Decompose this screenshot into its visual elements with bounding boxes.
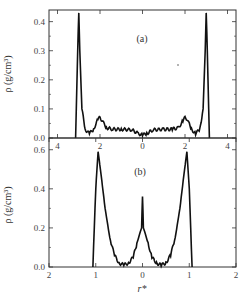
panel-a-label: (a) (136, 33, 147, 45)
panel-a-y-axis-label: ρ (g/cm³) (2, 55, 14, 92)
x-tick-label: 4 (225, 141, 230, 151)
x-axis-label: r* (138, 283, 147, 294)
y-tick-label: 0.4 (34, 17, 46, 27)
y-tick-label: 0.0 (34, 133, 46, 143)
y-tick-label: 0.0 (34, 262, 46, 272)
x-tick-label: 4 (55, 141, 60, 151)
x-tick-label: 0 (140, 270, 145, 280)
panel-b: 0.00.20.40.6 21012 (b) ρ (g/cm³) r* (2, 138, 238, 294)
figure: 0.00.10.20.30.4 42024 (a) ρ (g/cm³) 0.00… (0, 0, 245, 300)
x-tick-label: 2 (47, 270, 52, 280)
y-tick-label: 0.1 (34, 104, 45, 114)
y-tick-label: 0.2 (34, 223, 45, 233)
x-tick-label: 2 (183, 141, 188, 151)
x-tick-label: 2 (234, 270, 239, 280)
y-tick-label: 0.4 (34, 184, 46, 194)
panel-b-y-ticks: 0.00.20.40.6 (34, 145, 236, 272)
panel-b-y-axis-label: ρ (g/cm³) (2, 186, 14, 223)
stray-dot-marker (177, 64, 179, 66)
x-tick-label: 1 (187, 270, 192, 280)
panel-b-label: (b) (134, 166, 146, 178)
panel-a-density-curve (76, 13, 210, 138)
x-tick-label: 0 (140, 141, 145, 151)
y-tick-label: 0.3 (34, 46, 46, 56)
x-tick-label: 1 (94, 270, 99, 280)
panel-a: 0.00.10.20.30.4 42024 (a) ρ (g/cm³) (2, 10, 236, 151)
y-tick-label: 0.6 (34, 145, 46, 155)
y-tick-label: 0.2 (34, 75, 45, 85)
x-tick-label: 2 (98, 141, 103, 151)
